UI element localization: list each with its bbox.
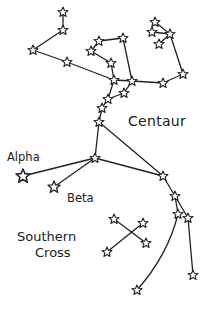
alpha-label: Alpha [7, 152, 40, 164]
alpha-star-icon [16, 169, 30, 182]
southern-cross-stars [102, 214, 151, 257]
beta-label: Beta [67, 193, 94, 205]
southern-cross-label-line1: Southern [17, 230, 76, 243]
beta-star-icon [48, 181, 60, 192]
centaur-label: Centaur [128, 114, 186, 128]
southern-cross-label-line2: Cross [35, 246, 71, 259]
star-chart: Centaur Alpha Beta Southern Cross [0, 0, 209, 309]
